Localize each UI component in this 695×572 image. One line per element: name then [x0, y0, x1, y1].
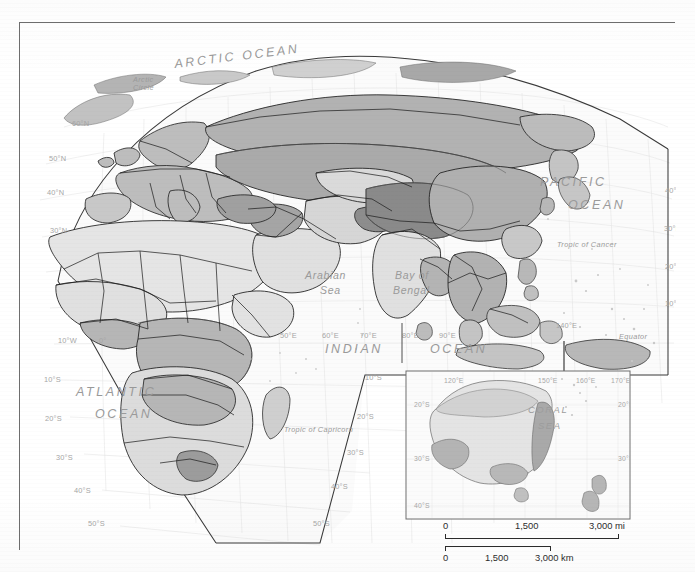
lat-label-mid-1: 20°S: [357, 412, 374, 421]
lat-label-left-5: 20°S: [45, 414, 62, 423]
ocean-label-tropic-of-cancer: Tropic of Cancer: [557, 240, 617, 249]
inset-lat-label-1: 30°S: [414, 455, 430, 462]
land-mindanao: [524, 286, 538, 301]
land-philippines: [518, 259, 536, 284]
inset-coral-sea-line2: SEA: [538, 420, 562, 431]
scale-bar-kilometers: 0 1,500 3,000 km: [443, 546, 678, 566]
lat-label-right-0: 40°N: [665, 186, 676, 195]
ocean-label-atlantic-ocean: ATLANTIC: [75, 385, 156, 399]
inset-lon-top-label-3: 170°E: [611, 377, 631, 384]
lon-label-1: 0°: [99, 336, 106, 345]
ocean-label-pacific-ocean: PACIFIC: [540, 175, 607, 189]
world-map-graphic: ARCTIC OCEANArcticCirclePACIFICOCEANArab…: [20, 23, 676, 551]
inset-map: CORAL SEA 20°S30°S40°S20°S30°S 120°E150°…: [406, 371, 635, 532]
ocean-label-arabian-sea2: Sea: [320, 284, 341, 296]
scale-km-zero: 0: [443, 552, 448, 563]
ocean-label-arabian-sea: Arabian: [304, 269, 346, 281]
scale-km-end: 3,000 km: [535, 552, 574, 563]
inset-lat-label-0: 20°S: [414, 401, 430, 408]
inset-coral-sea-line1: CORAL: [528, 404, 568, 415]
scale-bar-block: 0 1,500 3,000 mi 0 1,500 3,000 km: [443, 520, 678, 566]
scale-miles-rule: [445, 534, 619, 539]
lat-label-left-3: 30°N: [50, 226, 67, 235]
lat-label-left-2: 40°N: [47, 188, 64, 197]
lon-label-5: 80°E: [402, 331, 419, 340]
lat-label-left-0: 60°N: [72, 119, 89, 128]
lon-label-4: 70°E: [360, 331, 377, 340]
inset-land-tasmania: [514, 488, 528, 502]
lon-label-3: 60°E: [322, 331, 339, 340]
inset-lon-top-label-1: 150°E: [538, 377, 558, 384]
scale-km-mid: 1,500: [485, 552, 508, 563]
lon-label-2: 50°E: [280, 331, 297, 340]
lat-label-right-3: 10°N: [665, 299, 676, 308]
inset-lon-top-label-0: 120°E: [444, 377, 464, 384]
ocean-label-equator: Equator: [619, 332, 648, 341]
lat-label-left-7: 40°S: [74, 486, 91, 495]
ocean-label-arctic-circle2: Circle: [133, 83, 154, 92]
lat-label-left-6: 30°S: [56, 453, 73, 462]
lat-label-right-1: 30°N: [664, 224, 676, 233]
lat-label-left-8: 50°S: [88, 519, 105, 528]
inset-lon-top-label-2: 160°E: [576, 377, 596, 384]
lat-label-mid-3: 40°S: [331, 482, 348, 491]
ocean-label-indian-ocean2: OCEAN: [430, 342, 487, 356]
lon-label-6: 90°E: [439, 331, 456, 340]
ocean-label-pacific-ocean2: OCEAN: [568, 198, 625, 212]
map-page: ARCTIC OCEANArcticCirclePACIFICOCEANArab…: [0, 0, 695, 572]
inset-land-new-zealand-north: [592, 475, 606, 494]
scale-km-rule: [445, 546, 551, 551]
lat-label-left-1: 50°N: [49, 154, 66, 163]
lat-label-mid-0: 10°S: [365, 373, 382, 382]
lat-label-right-2: 20°N: [665, 262, 676, 271]
ocean-label-indian-ocean: INDIAN: [325, 342, 383, 356]
lat-label-left-4: 10°S: [44, 375, 61, 384]
ocean-label-bay-of-bengal: Bay of: [395, 269, 429, 281]
scale-bar-miles: 0 1,500 3,000 mi: [443, 520, 678, 540]
ocean-label-atlantic-ocean2: OCEAN: [95, 407, 152, 421]
lon-label-7: 140°E: [556, 321, 577, 330]
scale-miles-mid: 1,500: [515, 520, 538, 531]
scale-miles-end: 3,000 mi: [589, 520, 625, 531]
lon-label-0: 10°W: [58, 336, 77, 345]
ocean-label-bay-of-bengal2: Bengal: [393, 284, 430, 296]
scale-miles-zero: 0: [443, 520, 448, 531]
lat-label-mid-4: 50°S: [313, 519, 330, 528]
ocean-label-tropic-of-capricorn: Tropic of Capricorn: [284, 425, 353, 434]
map-plate-frame: ARCTIC OCEANArcticCirclePACIFICOCEANArab…: [19, 22, 675, 550]
inset-lat-label-2: 40°S: [414, 502, 430, 509]
lat-label-mid-2: 30°S: [347, 448, 364, 457]
